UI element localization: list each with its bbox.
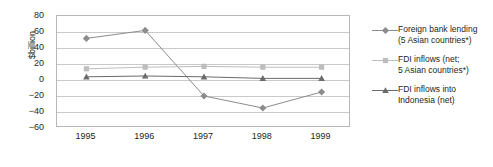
legend-key-marker	[381, 26, 390, 35]
chart-legend: Foreign bank lending (5 Asian countries*…	[372, 24, 493, 114]
y-axis-tick: 0	[18, 75, 44, 84]
legend-key-marker	[381, 86, 390, 95]
legend-key-marker	[381, 56, 390, 65]
x-axis-tick: 1998	[252, 131, 272, 141]
legend-item-label: FDI inflows (net; 5 Asian countries*)	[398, 54, 469, 75]
data-point-square	[84, 66, 89, 71]
y-axis-tick: −60	[18, 123, 44, 132]
square-marker	[372, 55, 398, 66]
y-axis-tick: 20	[18, 59, 44, 68]
legend-item-label: Foreign bank lending (5 Asian countries*…	[398, 24, 477, 45]
data-point-diamond	[318, 88, 325, 95]
data-point-square	[143, 65, 148, 70]
series-triangle	[83, 73, 325, 81]
x-axis-tick: 1999	[311, 131, 331, 141]
legend-item[interactable]: FDI inflows (net; 5 Asian countries*)	[372, 54, 493, 75]
y-axis-tick: −20	[18, 91, 44, 100]
y-axis-tick: 60	[18, 27, 44, 36]
data-point-diamond	[259, 104, 266, 111]
y-axis-tick: 80	[18, 11, 44, 20]
data-point-square	[260, 65, 265, 70]
x-axis-tick: 1997	[193, 131, 213, 141]
x-axis-tick: 1995	[75, 131, 95, 141]
data-point-square	[201, 64, 206, 69]
chart-container: $billion 806040200−20−40−60 199519961997…	[0, 0, 493, 167]
series-square	[84, 64, 324, 72]
y-axis-tick: −40	[18, 107, 44, 116]
data-point-square	[319, 65, 324, 70]
legend-item[interactable]: Foreign bank lending (5 Asian countries*…	[372, 24, 493, 45]
series-layer	[57, 16, 351, 128]
diamond-marker	[372, 25, 398, 36]
legend-item-label: FDI inflows into Indonesia (net)	[398, 84, 456, 105]
plot-area	[56, 15, 350, 127]
legend-item[interactable]: FDI inflows into Indonesia (net)	[372, 84, 493, 105]
data-point-diamond	[83, 35, 90, 42]
x-axis-tick: 1996	[134, 131, 154, 141]
y-axis-tick: 40	[18, 43, 44, 52]
triangle-marker	[372, 85, 398, 96]
y-axis-tick-labels: 806040200−20−40−60	[14, 0, 44, 167]
series-diamond	[83, 27, 325, 112]
x-axis-tick-labels: 19951996199719981999	[56, 131, 350, 151]
